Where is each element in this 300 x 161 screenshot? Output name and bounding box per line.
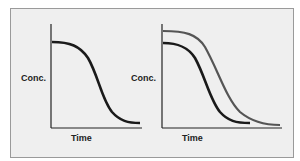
left-panel-ylabel: Conc. bbox=[21, 73, 46, 83]
right-panel-xlabel: Time bbox=[182, 133, 203, 143]
right-panel-ylabel: Conc. bbox=[131, 73, 156, 83]
left-panel-curve bbox=[52, 42, 140, 123]
right-panel-curve-baseline bbox=[163, 43, 250, 123]
left-panel-xlabel: Time bbox=[71, 133, 92, 143]
